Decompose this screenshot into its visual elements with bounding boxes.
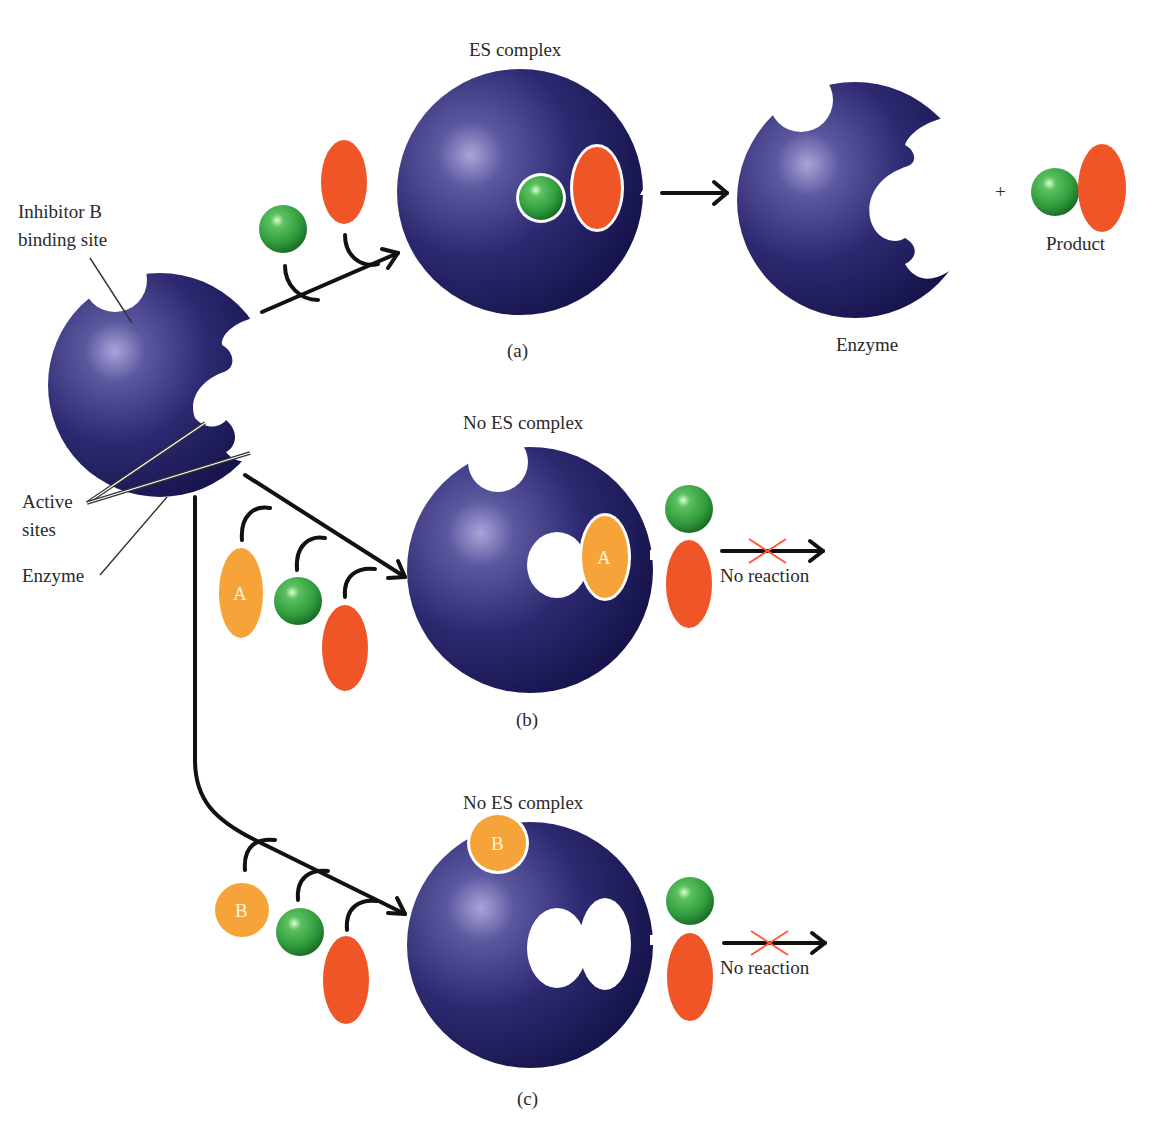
label-active-sites-line2: sites <box>22 519 56 540</box>
bound-red-substrate <box>573 147 621 229</box>
empty-substrate-pocket-1 <box>527 908 587 988</box>
hook-red <box>345 235 378 265</box>
substrate-red <box>323 936 369 1024</box>
product-green <box>1031 168 1079 216</box>
unbound-red-substrate <box>667 933 713 1021</box>
inhibitor-a-letter: A <box>233 583 247 604</box>
no-reaction-c: No reaction <box>720 957 810 978</box>
panel-b-title: No ES complex <box>463 412 584 433</box>
label-inhibitor-b-line2: binding site <box>18 229 107 250</box>
bound-inhibitor-a-letter: A <box>597 547 611 568</box>
substrate-red-ellipse <box>321 140 367 224</box>
label-active-sites-line1: Active <box>22 491 73 512</box>
empty-substrate-pocket <box>527 532 587 598</box>
panel-a-title: ES complex <box>469 39 562 60</box>
substrate-green-sphere <box>259 205 307 253</box>
substrate-red <box>322 605 368 691</box>
no-reaction-b: No reaction <box>720 565 810 586</box>
panel-c-title: No ES complex <box>463 792 584 813</box>
panel-b-caption: (b) <box>516 709 538 731</box>
unbound-red-substrate <box>666 540 712 628</box>
hook-red <box>347 901 377 930</box>
label-enzyme-left: Enzyme <box>22 565 84 586</box>
hook-red <box>345 569 375 597</box>
inhibitor-b-binding-site <box>769 68 833 132</box>
inhibitor-b-letter: B <box>235 900 248 921</box>
substrate-green <box>274 577 322 625</box>
bound-inhibitor-b-letter: B <box>491 833 504 854</box>
unbound-green-substrate <box>665 485 713 533</box>
empty-substrate-pocket-2 <box>579 898 631 990</box>
inhibitor-b-binding-site <box>83 248 147 312</box>
released-enzyme <box>737 60 990 318</box>
hook-green <box>297 537 325 570</box>
enzyme-inhibitor-b-complex: B <box>407 812 680 1068</box>
plus-sign: + <box>995 181 1006 202</box>
result-enzyme-label: Enzyme <box>836 334 898 355</box>
product-red <box>1078 144 1126 232</box>
hook-inhibitor-a <box>242 507 270 540</box>
enzyme-inhibitor-a-complex: A <box>407 430 680 693</box>
panel-b: A No ES complex A (b) No reaction <box>219 412 823 731</box>
label-inhibitor-b-line1: Inhibitor B <box>18 201 102 222</box>
substrate-green <box>276 908 324 956</box>
panel-c-caption: (c) <box>517 1088 538 1110</box>
bound-green-substrate <box>519 176 563 220</box>
arrow-to-panel-b <box>245 475 405 577</box>
unbound-green-substrate <box>666 877 714 925</box>
free-enzyme-left <box>48 248 300 497</box>
product-label: Product <box>1046 233 1106 254</box>
panel-a-caption: (a) <box>507 340 528 362</box>
enzyme-inhibition-diagram: Inhibitor B binding site Active sites En… <box>0 0 1157 1122</box>
panel-a: ES complex (a) Enzyme + Product <box>259 39 1126 362</box>
leader-enzyme <box>100 497 167 575</box>
